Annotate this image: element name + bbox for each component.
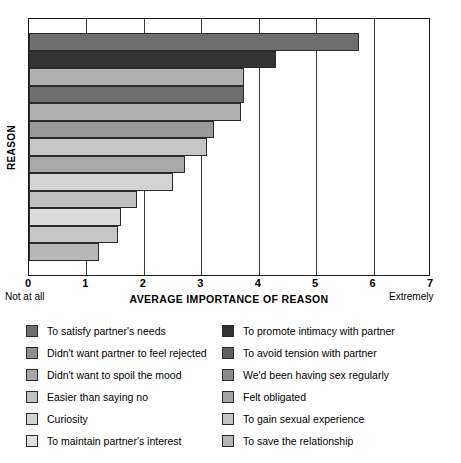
bar [29, 226, 118, 244]
legend-item-label: To maintain partner's interest [47, 436, 182, 447]
plot-area [28, 18, 430, 276]
x-axis-tick-labels: 01234567 [28, 277, 430, 291]
legend-swatch-icon [222, 413, 234, 425]
legend-item-label: We'd been having sex regularly [243, 370, 389, 381]
legend-swatch-icon [222, 391, 234, 403]
legend-item[interactable]: We'd been having sex regularly [222, 364, 446, 386]
bar [29, 103, 241, 121]
legend-swatch-icon [222, 435, 234, 447]
legend-swatch-icon [26, 369, 38, 381]
bar-chart-figure: REASON 01234567 Not at all Extremely AVE… [0, 0, 461, 463]
legend-item-label: To gain sexual experience [243, 414, 364, 425]
bar [29, 156, 185, 174]
bar [29, 86, 244, 104]
legend-item[interactable]: Curiosity [26, 408, 222, 430]
bar [29, 51, 276, 69]
legend-item[interactable]: To promote intimacy with partner [222, 320, 446, 342]
bar [29, 208, 121, 226]
legend-swatch-icon [26, 435, 38, 447]
x-tick-label-5: 5 [302, 277, 328, 289]
legend-item[interactable]: To satisfy partner's needs [26, 320, 222, 342]
legend-item-label: Didn't want partner to feel rejected [47, 348, 207, 359]
legend-swatch-icon [222, 369, 234, 381]
x-tick-label-3: 3 [187, 277, 213, 289]
legend-item-label: Felt obligated [243, 392, 306, 403]
legend-item[interactable]: Didn't want partner to feel rejected [26, 342, 222, 364]
bar-series [29, 19, 429, 275]
y-axis-title: REASON [1, 18, 23, 276]
legend-item-label: To save the relationship [243, 436, 353, 447]
legend-item[interactable]: To maintain partner's interest [26, 430, 222, 452]
bar [29, 33, 359, 51]
legend-column-left: To satisfy partner's needsDidn't want pa… [26, 320, 222, 456]
legend-item[interactable]: To gain sexual experience [222, 408, 446, 430]
legend-swatch-icon [26, 347, 38, 359]
x-tick-label-1: 1 [72, 277, 98, 289]
legend-swatch-icon [26, 413, 38, 425]
legend-item-label: To avoid tension with partner [243, 348, 377, 359]
legend-item[interactable]: To save the relationship [222, 430, 446, 452]
x-tick-label-0: 0 [15, 277, 41, 289]
x-axis-title: AVERAGE IMPORTANCE OF REASON [28, 293, 430, 305]
legend-swatch-icon [26, 391, 38, 403]
x-tick-label-6: 6 [360, 277, 386, 289]
bar [29, 68, 244, 86]
bar [29, 243, 99, 261]
x-tick-label-7: 7 [417, 277, 443, 289]
legend-item[interactable]: To avoid tension with partner [222, 342, 446, 364]
legend-swatch-icon [222, 347, 234, 359]
bar [29, 138, 207, 156]
bar [29, 121, 214, 139]
bar [29, 191, 137, 209]
legend: To satisfy partner's needsDidn't want pa… [26, 320, 446, 456]
legend-item[interactable]: Felt obligated [222, 386, 446, 408]
legend-item[interactable]: Easier than saying no [26, 386, 222, 408]
legend-item-label: To satisfy partner's needs [47, 326, 166, 337]
x-tick-label-4: 4 [245, 277, 271, 289]
legend-swatch-icon [26, 325, 38, 337]
legend-item-label: To promote intimacy with partner [243, 326, 395, 337]
bar [29, 173, 173, 191]
legend-column-right: To promote intimacy with partnerTo avoid… [222, 320, 446, 456]
legend-item[interactable]: Didn't want to spoil the mood [26, 364, 222, 386]
legend-swatch-icon [222, 325, 234, 337]
legend-item-label: Curiosity [47, 414, 88, 425]
y-axis-title-text: REASON [7, 124, 18, 169]
legend-item-label: Didn't want to spoil the mood [47, 370, 182, 381]
x-tick-label-2: 2 [130, 277, 156, 289]
legend-item-label: Easier than saying no [47, 392, 148, 403]
